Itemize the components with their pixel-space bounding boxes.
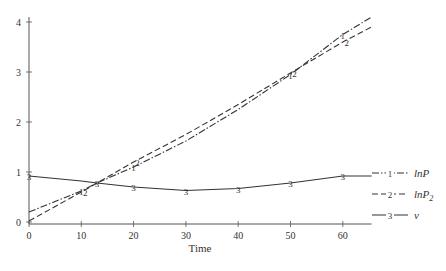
series-marker-label: 2 xyxy=(345,38,350,48)
legend-marker: 1 xyxy=(388,169,393,179)
y-tick-label: 0 xyxy=(16,217,21,228)
x-tick-label: 50 xyxy=(286,230,296,241)
x-tick-label: 0 xyxy=(27,230,32,241)
x-tick-label: 10 xyxy=(76,230,86,241)
line-chart: 010203040506001234 111122223333333 1lnP2… xyxy=(0,0,446,271)
legend-marker: 2 xyxy=(388,190,393,200)
legend-label: lnP xyxy=(414,167,430,179)
series-lnp-line xyxy=(29,17,372,212)
series-marker-label: 3 xyxy=(95,179,100,189)
legend-marker: 3 xyxy=(388,211,393,221)
legend-label: lnP2 xyxy=(414,188,433,203)
series-marker-label: 2 xyxy=(135,158,140,168)
series-marker-label: 3 xyxy=(236,185,241,195)
x-tick-label: 20 xyxy=(129,230,139,241)
series-marker-label: 3 xyxy=(288,179,293,189)
y-tick-label: 4 xyxy=(16,17,21,28)
x-axis-label: Time xyxy=(189,242,212,254)
legend: 1lnP2lnP23v xyxy=(372,167,433,221)
x-tick-label: 30 xyxy=(181,230,191,241)
y-tick-label: 2 xyxy=(16,117,21,128)
series-lines: 111122223333333 xyxy=(27,17,372,221)
series-marker-label: 2 xyxy=(83,188,88,198)
y-tick-label: 3 xyxy=(16,67,21,78)
y-tick-label: 1 xyxy=(16,167,21,178)
series-marker-label: 3 xyxy=(131,183,136,193)
series-marker-label: 3 xyxy=(27,172,32,182)
series-marker-label: 3 xyxy=(184,187,189,197)
x-tick-label: 40 xyxy=(233,230,243,241)
series-lnp2-line xyxy=(29,27,372,221)
series-marker-label: 2 xyxy=(292,69,297,79)
legend-label: v xyxy=(414,209,419,221)
series-marker-label: 3 xyxy=(341,172,346,182)
axes: 010203040506001234 xyxy=(16,17,372,241)
x-tick-label: 60 xyxy=(338,230,348,241)
